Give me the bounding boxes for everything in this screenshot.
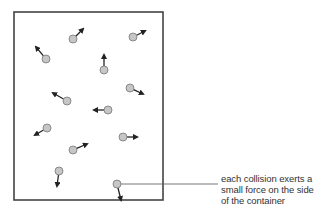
gas-particle [119,133,127,141]
velocity-arrow-icon [77,144,87,148]
velocity-arrow-icon [36,47,43,56]
particle [53,93,71,105]
particles-group [35,29,145,200]
gas-particle [126,84,134,92]
velocity-arrow-icon [35,130,44,135]
velocity-arrow-icon [134,90,143,94]
particle [69,144,87,154]
velocity-arrow-icon [57,175,58,186]
particle [94,106,112,114]
velocity-arrow-icon [76,29,83,36]
gas-particle [63,97,71,105]
particle [36,47,50,63]
container-box [14,12,163,200]
gas-particle [43,124,51,132]
velocity-arrow-icon [118,188,121,200]
particle [35,124,51,135]
gas-particle [113,180,121,188]
particle [100,55,108,74]
particle [69,29,83,43]
particle [129,31,145,41]
annotation-line-1: each collision exerts a [221,173,329,184]
annotation-caption: each collision exerts a small force on t… [221,173,329,206]
particle [113,180,121,200]
particle [119,133,137,141]
gas-particle [69,146,77,154]
particle [126,84,143,94]
gas-particle [129,33,137,41]
gas-particle [104,106,112,114]
annotation-line-3: of the container [221,195,329,206]
gas-particle [69,35,77,43]
annotation-line-2: small force on the side [221,184,329,195]
gas-particle [42,55,50,63]
velocity-arrow-icon [53,93,64,99]
gas-particle [100,66,108,74]
gas-particle [55,167,63,175]
velocity-arrow-icon [137,31,145,35]
particle [55,167,63,186]
